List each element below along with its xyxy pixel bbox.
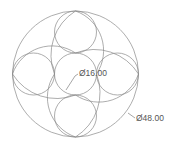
- swirl-arc-3a: [47, 74, 75, 137]
- swirl-arc-4a: [13, 46, 76, 74]
- swirl-arc-1a: [76, 11, 104, 74]
- inner-diameter-label: Ø16.00: [79, 68, 107, 78]
- outer-diameter-label: Ø48.00: [136, 113, 164, 123]
- inner-dim-leader: [66, 76, 75, 90]
- inner-dim-leader-tail: [75, 74, 78, 76]
- outer-dim-leader: [128, 113, 135, 118]
- swirl-arc-3b: [76, 74, 101, 137]
- geometry-group: [13, 11, 139, 137]
- swirl-arc-2a: [76, 74, 139, 102]
- swirl-arc-1b: [51, 11, 76, 74]
- cad-drawing: Ø16.00 Ø48.00: [0, 0, 172, 155]
- outer-circle: [13, 11, 139, 137]
- swirl-arc-4b: [13, 74, 76, 99]
